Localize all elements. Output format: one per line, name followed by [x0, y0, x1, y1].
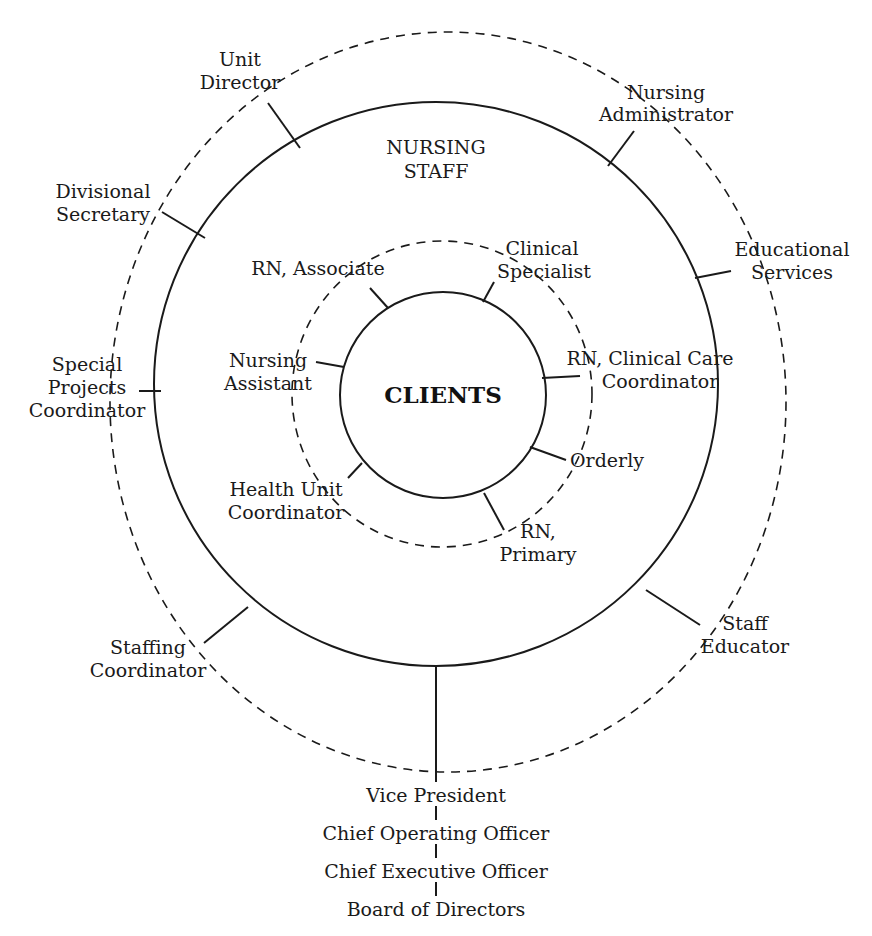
svg-text:Director: Director — [200, 71, 281, 93]
svg-text:Health Unit: Health Unit — [229, 478, 342, 500]
connector-staffing-coordinator — [204, 607, 248, 643]
connector-rn-associate — [370, 288, 388, 308]
svg-text:Administrator: Administrator — [598, 103, 734, 125]
connector-clinical-specialist — [483, 282, 494, 302]
svg-text:Nursing: Nursing — [229, 349, 307, 371]
svg-text:Orderly: Orderly — [570, 449, 644, 471]
connector-nursing-administrator — [608, 131, 634, 166]
role-divisional-secretary: Divisional Secretary — [55, 180, 150, 225]
svg-text:RN, Clinical Care: RN, Clinical Care — [566, 347, 733, 369]
svg-text:Unit: Unit — [219, 48, 261, 70]
svg-text:Services: Services — [751, 261, 833, 283]
role-unit-director: Unit Director — [200, 48, 281, 93]
svg-text:RN,: RN, — [520, 520, 556, 542]
connector-health-unit — [348, 463, 362, 478]
role-orderly: Orderly — [570, 449, 644, 471]
svg-text:Coordinator: Coordinator — [228, 501, 345, 523]
role-nursing-administrator: Nursing Administrator — [598, 81, 734, 125]
svg-text:Assistant: Assistant — [223, 372, 312, 394]
role-rn-primary: RN, Primary — [499, 520, 576, 565]
clients-label: CLIENTS — [384, 381, 502, 408]
connector-staff-educator — [646, 590, 700, 625]
svg-text:Divisional: Divisional — [55, 180, 150, 202]
svg-text:Educational: Educational — [734, 238, 849, 260]
role-staffing-coordinator: Staffing Coordinator — [90, 636, 207, 681]
svg-text:Coordinator: Coordinator — [602, 370, 719, 392]
svg-text:Special: Special — [52, 353, 123, 375]
role-special-projects-coordinator: Special Projects Coordinator — [29, 353, 146, 421]
role-rn-associate: RN, Associate — [251, 257, 384, 279]
role-rn-clinical-care-coordinator: RN, Clinical Care Coordinator — [566, 347, 733, 392]
svg-text:Staff: Staff — [722, 612, 769, 634]
svg-text:Clinical: Clinical — [505, 237, 578, 259]
svg-text:Coordinator: Coordinator — [90, 659, 207, 681]
role-educational-services: Educational Services — [734, 238, 849, 283]
role-clinical-specialist: Clinical Specialist — [497, 237, 591, 282]
svg-text:Specialist: Specialist — [497, 260, 591, 282]
svg-text:Secretary: Secretary — [56, 203, 150, 225]
nursing-organization-diagram: CLIENTS NURSING STAFF RN, Associate Clin… — [0, 0, 872, 936]
svg-text:Staffing: Staffing — [110, 636, 186, 658]
hierarchy-coo: Chief Operating Officer — [323, 822, 551, 844]
svg-text:Nursing: Nursing — [627, 81, 705, 103]
connector-orderly — [530, 447, 566, 460]
nursing-staff-label-2: STAFF — [404, 160, 469, 182]
svg-text:Educator: Educator — [701, 635, 790, 657]
nursing-staff-label: NURSING — [386, 136, 485, 158]
role-health-unit-coordinator: Health Unit Coordinator — [228, 478, 345, 523]
hierarchy-board: Board of Directors — [347, 898, 526, 920]
connector-rn-clinical-care — [542, 376, 580, 378]
role-staff-educator: Staff Educator — [701, 612, 790, 657]
hierarchy-ceo: Chief Executive Officer — [324, 860, 549, 882]
svg-text:Coordinator: Coordinator — [29, 399, 146, 421]
connector-unit-director — [268, 103, 300, 148]
connector-educational-services — [695, 271, 731, 278]
svg-text:Projects: Projects — [48, 376, 126, 398]
hierarchy-vice-president: Vice President — [365, 784, 506, 806]
svg-text:Primary: Primary — [499, 543, 576, 565]
connector-nursing-assistant — [316, 362, 344, 367]
svg-text:RN, Associate: RN, Associate — [251, 257, 384, 279]
connector-rn-primary — [484, 493, 504, 530]
connector-divisional-secretary — [162, 212, 205, 238]
role-nursing-assistant: Nursing Assistant — [223, 349, 312, 394]
